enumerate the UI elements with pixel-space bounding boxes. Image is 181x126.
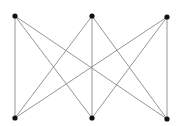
graph-node-t3 [164,14,169,19]
graph-node-b1 [12,115,17,120]
graph-node-b3 [164,116,169,121]
graph-node-t2 [89,13,94,18]
bipartite-graph-diagram [0,0,181,126]
graph-edges [15,16,167,119]
graph-node-b2 [89,115,94,120]
graph-node-t1 [12,13,17,18]
graph-edge-t3-b1 [15,17,167,118]
